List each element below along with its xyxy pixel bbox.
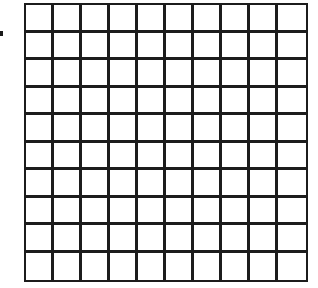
grid-cell bbox=[278, 198, 306, 226]
grid-cell bbox=[110, 115, 138, 143]
grid-cell bbox=[110, 5, 138, 33]
grid-cell bbox=[194, 115, 222, 143]
grid-cell bbox=[54, 143, 82, 171]
grid-cell bbox=[194, 143, 222, 171]
grid-cell bbox=[250, 143, 278, 171]
grid-cell bbox=[110, 143, 138, 171]
edge-marker bbox=[0, 31, 3, 36]
grid-cell bbox=[250, 88, 278, 116]
grid-cell bbox=[194, 5, 222, 33]
grid-cell bbox=[54, 225, 82, 253]
grid-cell bbox=[82, 170, 110, 198]
grid-cell bbox=[194, 170, 222, 198]
grid-cell bbox=[82, 5, 110, 33]
grid-cell bbox=[26, 170, 54, 198]
grid-cell bbox=[26, 33, 54, 61]
grid-cell bbox=[26, 143, 54, 171]
grid-cell bbox=[250, 253, 278, 281]
grid-cell bbox=[26, 5, 54, 33]
grid-cell bbox=[138, 115, 166, 143]
grid-cell bbox=[110, 170, 138, 198]
grid-cell bbox=[278, 225, 306, 253]
grid-cell bbox=[222, 33, 250, 61]
grid-cell bbox=[194, 60, 222, 88]
grid-cell bbox=[110, 33, 138, 61]
grid-cell bbox=[250, 225, 278, 253]
grid-cell bbox=[138, 225, 166, 253]
grid-cell bbox=[138, 198, 166, 226]
grid-cell bbox=[26, 115, 54, 143]
grid-cell bbox=[82, 225, 110, 253]
grid-cell bbox=[222, 225, 250, 253]
grid-cell bbox=[110, 198, 138, 226]
grid-cell bbox=[166, 115, 194, 143]
grid-cell bbox=[194, 225, 222, 253]
grid-cell bbox=[166, 143, 194, 171]
grid-cell bbox=[54, 198, 82, 226]
grid-cell bbox=[166, 170, 194, 198]
grid-cell bbox=[54, 88, 82, 116]
grid-cell bbox=[250, 5, 278, 33]
grid-cell bbox=[82, 60, 110, 88]
grid-cell bbox=[54, 170, 82, 198]
grid-cell bbox=[26, 88, 54, 116]
grid-cell bbox=[222, 88, 250, 116]
grid-cell bbox=[194, 33, 222, 61]
grid-cell bbox=[82, 115, 110, 143]
grid-cell bbox=[222, 170, 250, 198]
grid-cell bbox=[54, 33, 82, 61]
grid-cell bbox=[138, 88, 166, 116]
grid-cell bbox=[250, 198, 278, 226]
grid-cell bbox=[250, 115, 278, 143]
grid-cell bbox=[82, 33, 110, 61]
grid-cell bbox=[194, 253, 222, 281]
grid-cell bbox=[278, 115, 306, 143]
grid-cell bbox=[194, 198, 222, 226]
grid-cell bbox=[26, 198, 54, 226]
grid-cell bbox=[166, 225, 194, 253]
grid-cell bbox=[110, 225, 138, 253]
grid-cell bbox=[138, 5, 166, 33]
grid-cell bbox=[166, 198, 194, 226]
grid-cell bbox=[138, 143, 166, 171]
grid-cell bbox=[250, 170, 278, 198]
grid-cell bbox=[26, 60, 54, 88]
grid-cell bbox=[222, 60, 250, 88]
grid-cell bbox=[278, 60, 306, 88]
grid-cell bbox=[278, 143, 306, 171]
grid-cell bbox=[82, 143, 110, 171]
grid-cell bbox=[222, 5, 250, 33]
grid-cell bbox=[222, 198, 250, 226]
grid-cell bbox=[166, 33, 194, 61]
grid-cell bbox=[82, 253, 110, 281]
grid-cell bbox=[138, 253, 166, 281]
grid-cell bbox=[138, 170, 166, 198]
grid-cell bbox=[54, 253, 82, 281]
grid-cell bbox=[82, 88, 110, 116]
grid-cell bbox=[138, 33, 166, 61]
grid-cell bbox=[166, 60, 194, 88]
grid-cell bbox=[138, 60, 166, 88]
grid-cell bbox=[110, 253, 138, 281]
grid-cell bbox=[250, 60, 278, 88]
grid-cell bbox=[82, 198, 110, 226]
ten-by-ten-grid bbox=[24, 3, 308, 282]
grid-cell bbox=[278, 170, 306, 198]
grid-cell bbox=[54, 115, 82, 143]
grid-cell bbox=[222, 253, 250, 281]
grid-cell bbox=[166, 5, 194, 33]
grid-cell bbox=[278, 33, 306, 61]
grid-cell bbox=[166, 253, 194, 281]
grid-cell bbox=[222, 115, 250, 143]
grid-cell bbox=[194, 88, 222, 116]
grid-cell bbox=[222, 143, 250, 171]
grid-cell bbox=[26, 253, 54, 281]
grid-cell bbox=[54, 5, 82, 33]
grid-cell bbox=[54, 60, 82, 88]
grid-cell bbox=[278, 5, 306, 33]
grid-cell bbox=[26, 225, 54, 253]
grid-cell bbox=[278, 253, 306, 281]
grid-cell bbox=[110, 88, 138, 116]
grid-cell bbox=[166, 88, 194, 116]
grid-cell bbox=[250, 33, 278, 61]
